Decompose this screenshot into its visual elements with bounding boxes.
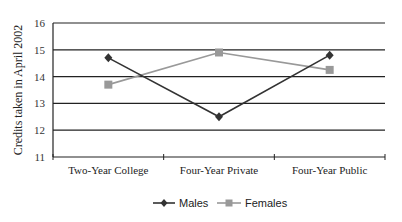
- x-category-label: Four-Year Public: [292, 164, 367, 176]
- x-category-label: Two-Year College: [68, 164, 148, 176]
- y-tick-label: 11: [34, 151, 45, 163]
- square-marker: [215, 48, 223, 56]
- diamond-marker: [104, 53, 112, 62]
- y-tick-label: 13: [34, 97, 46, 109]
- legend: MalesFemales: [153, 197, 288, 209]
- legend-diamond-icon: [161, 199, 168, 207]
- gridlines: [53, 23, 385, 157]
- diamond-marker: [326, 51, 334, 60]
- y-tick-label: 12: [34, 124, 45, 136]
- square-marker: [326, 66, 334, 74]
- series-lines: [104, 48, 333, 121]
- line-chart: 111213141516 Two-Year CollegeFour-Year P…: [0, 0, 402, 222]
- square-marker: [104, 81, 112, 89]
- legend-label-females: Females: [245, 197, 288, 209]
- x-category-label: Four-Year Private: [180, 164, 259, 176]
- y-axis-label: Credits taken in April 2002: [11, 25, 25, 156]
- diamond-marker: [215, 112, 223, 121]
- y-tick-label: 14: [34, 71, 46, 83]
- y-axis-ticks: 111213141516: [34, 17, 46, 163]
- legend-square-icon: [226, 200, 233, 207]
- legend-label-males: Males: [179, 197, 209, 209]
- y-tick-label: 15: [34, 44, 46, 56]
- series-females: [104, 48, 333, 88]
- y-tick-label: 16: [34, 17, 46, 29]
- series-males: [104, 51, 333, 122]
